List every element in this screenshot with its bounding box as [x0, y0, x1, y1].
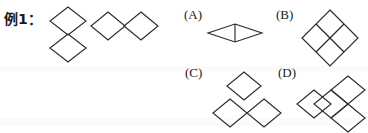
- option-d-label: (D): [278, 66, 296, 79]
- example-figure-2: [88, 8, 160, 46]
- option-c-figure: [212, 70, 284, 132]
- option-a-label: (A): [184, 8, 202, 21]
- option-b-label: (B): [276, 8, 293, 21]
- option-d-figure: [300, 74, 368, 132]
- option-a-figure: [205, 20, 265, 46]
- option-c-label: (C): [185, 66, 202, 79]
- option-b-figure: [300, 8, 360, 68]
- example-label: 例1：: [4, 12, 42, 26]
- example-figure-1: [46, 4, 90, 66]
